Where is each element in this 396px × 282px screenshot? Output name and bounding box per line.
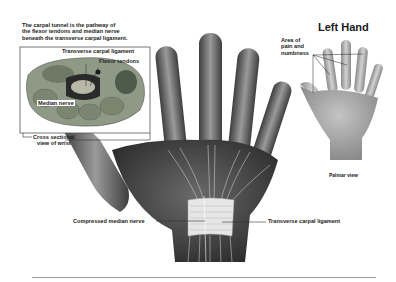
bottom-divider bbox=[32, 277, 376, 278]
intro-text: The carpal tunnel is the pathway of the … bbox=[22, 22, 127, 41]
label-compressed-median-nerve: Compressed median nerve bbox=[73, 218, 145, 224]
area-label-line-3: numbness bbox=[281, 50, 309, 56]
inset-label-median-nerve: Median nerve bbox=[37, 100, 75, 106]
palmar-view-hand bbox=[300, 40, 384, 160]
intro-line-3: beneath the transverse carpal ligament. bbox=[22, 35, 127, 41]
palmar-view-caption: Palmar view bbox=[329, 172, 358, 178]
inset-label-flexor-tendons: Flexor tendons bbox=[99, 58, 139, 64]
area-label: Area of pain and numbness bbox=[281, 37, 309, 56]
intro-line-2: the flexor tendons and median nerve bbox=[22, 28, 127, 34]
inset-caption: Cross sectional view of wrist bbox=[33, 134, 75, 147]
inset-label-transverse-ligament: Transverse carpal ligament bbox=[62, 48, 134, 54]
label-transverse-carpal-ligament: Transverse carpal ligament bbox=[268, 218, 340, 224]
inset-caption-line-2: view of wrist bbox=[33, 140, 75, 146]
left-hand-title: Left Hand bbox=[318, 21, 369, 33]
